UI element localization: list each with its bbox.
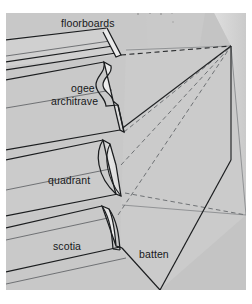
label-batten: batten <box>139 248 169 260</box>
diagram-panel <box>6 12 246 290</box>
label-architrave: architrave <box>51 95 98 107</box>
label-scotia: scotia <box>53 240 81 252</box>
speck-3 <box>160 13 162 15</box>
label-quadrant: quadrant <box>48 174 90 186</box>
moulding-perspective-diagram: floorboards ogee architrave quadrant sco… <box>0 0 252 304</box>
figure-root: floorboards ogee architrave quadrant sco… <box>0 0 252 304</box>
speck-4 <box>171 12 173 14</box>
speck-2 <box>149 12 151 14</box>
speck-5 <box>172 21 173 22</box>
label-ogee: ogee <box>71 82 95 94</box>
speck-1 <box>137 13 139 15</box>
label-floorboards: floorboards <box>61 17 115 29</box>
